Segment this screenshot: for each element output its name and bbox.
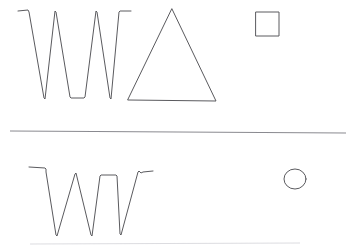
circle-shape[interactable] bbox=[284, 169, 306, 189]
sketch-surface[interactable] bbox=[0, 0, 357, 250]
upper-drawing-area bbox=[18, 9, 279, 101]
square-shape[interactable] bbox=[256, 12, 279, 36]
faint-bottom-line bbox=[30, 243, 300, 244]
zigzag-w-bottom-shape[interactable] bbox=[29, 167, 153, 236]
horizontal-divider-line bbox=[10, 131, 346, 133]
footer-group bbox=[30, 243, 300, 244]
zigzag-w-top-shape[interactable] bbox=[18, 10, 131, 99]
sketch-canvas[interactable] bbox=[0, 0, 357, 250]
divider-group bbox=[10, 131, 346, 133]
triangle-shape[interactable] bbox=[128, 9, 216, 101]
lower-drawing-area bbox=[29, 167, 306, 236]
